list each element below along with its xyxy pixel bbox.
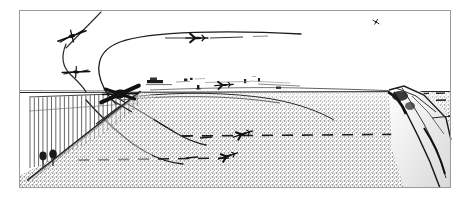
- illustration-canvas: [0, 0, 470, 201]
- airfield-scene-svg: [0, 0, 470, 201]
- sky-region: [19, 10, 451, 92]
